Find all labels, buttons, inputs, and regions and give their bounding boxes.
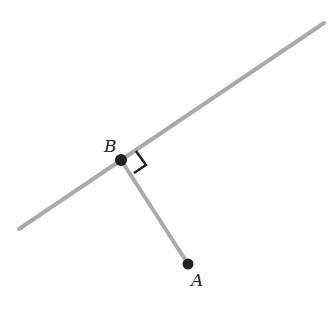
point-b (115, 154, 127, 166)
label-b: B (103, 136, 117, 156)
label-a: A (189, 270, 203, 290)
perpendicular-segment (121, 160, 188, 264)
point-a (183, 259, 194, 270)
main-line (19, 23, 324, 229)
right-angle-marker (134, 151, 146, 173)
diagram-canvas: B A (0, 0, 336, 313)
